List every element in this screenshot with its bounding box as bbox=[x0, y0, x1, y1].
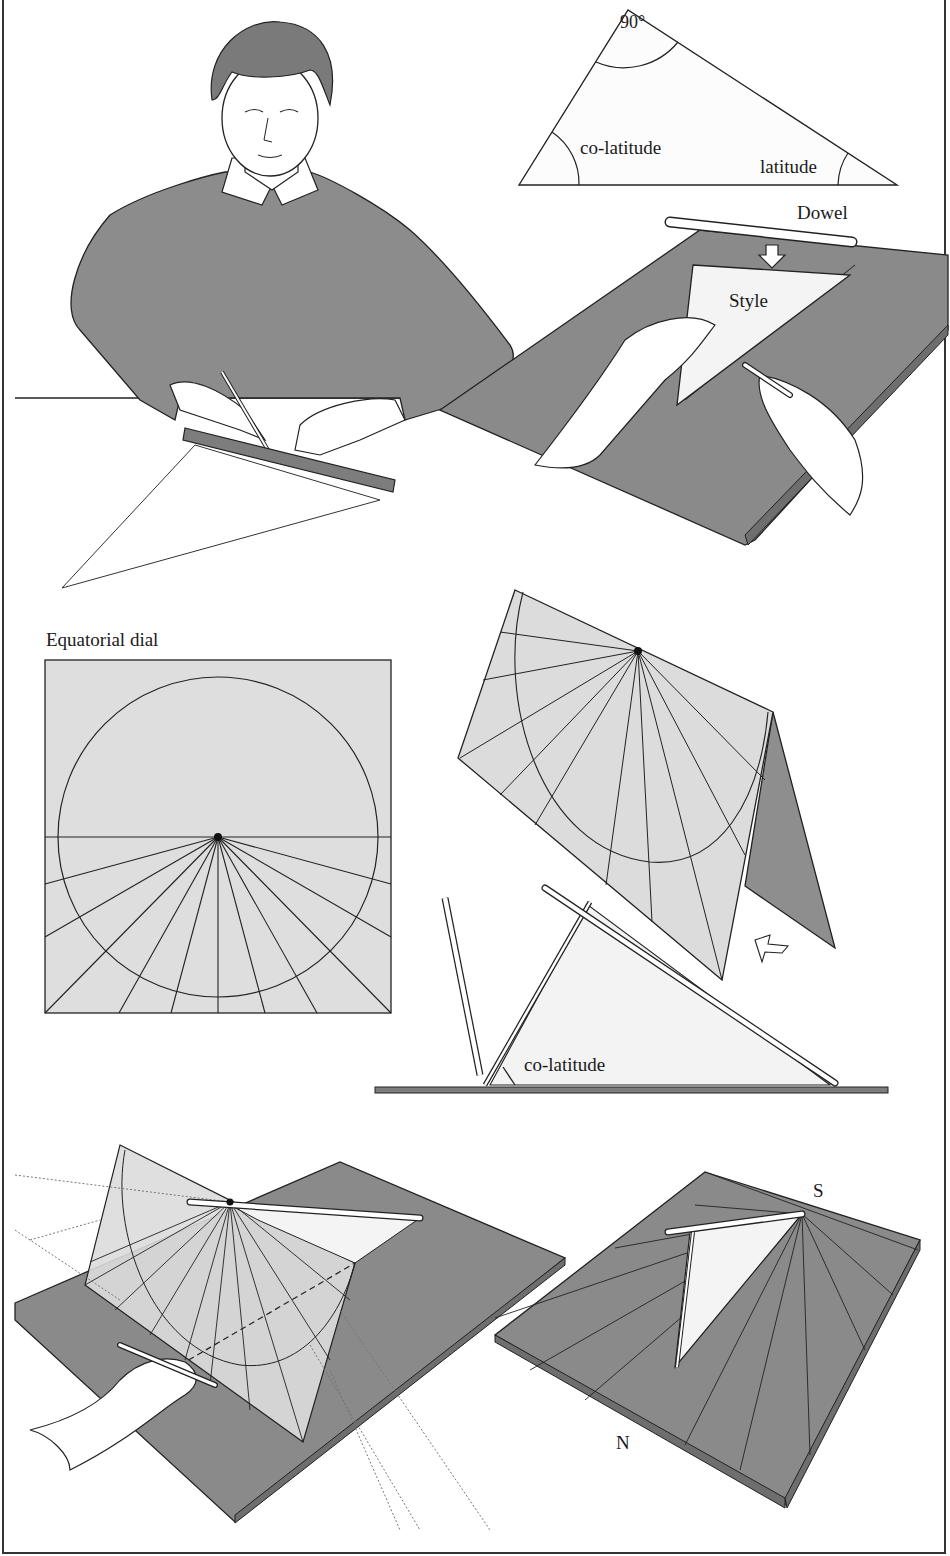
north-label: N bbox=[616, 1432, 630, 1454]
illustration-canvas bbox=[0, 0, 950, 1556]
marking-board-scene bbox=[15, 1145, 565, 1530]
equatorial-dial-title: Equatorial dial bbox=[46, 629, 158, 651]
dowel-label: Dowel bbox=[797, 202, 848, 224]
style-dowel-scene bbox=[440, 222, 948, 545]
south-label: S bbox=[813, 1180, 824, 1202]
angle-label-latitude: latitude bbox=[760, 156, 817, 178]
angle-triangle-diagram bbox=[519, 10, 897, 185]
person-drawing-scene bbox=[15, 22, 535, 588]
equatorial-dial-diagram bbox=[45, 660, 391, 1013]
style-label: Style bbox=[729, 290, 768, 312]
folded-dial-card bbox=[458, 590, 835, 980]
finished-sundial bbox=[495, 1172, 920, 1508]
angle-label-co-latitude: co-latitude bbox=[580, 137, 661, 159]
angle-label-90: 90° bbox=[620, 12, 645, 33]
co-latitude-angle-label: co-latitude bbox=[524, 1054, 605, 1076]
